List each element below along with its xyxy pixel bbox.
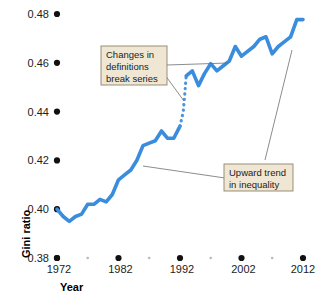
x-tick-dot-1972 [54,255,60,261]
x-minor-tick-dot-1977 [86,257,89,260]
y-tick-label-048: 0.48 [28,8,49,20]
x-tick-dot-1992 [177,255,183,261]
x-axis-tick-labels: 1972 1982 1992 2002 2012 [47,263,315,275]
x-tick-dot-2002 [238,255,244,261]
annotation-trend-callout-line-1: Upward trend [229,167,286,178]
y-tick-dot-044 [54,109,60,115]
x-tick-label-1982: 1982 [108,263,132,275]
x-axis-ticks [54,255,306,261]
leader-break-to-dotted [165,75,184,101]
x-minor-tick-dot-2007 [271,257,274,260]
x-tick-label-1972: 1972 [47,263,71,275]
y-tick-dot-046 [54,60,60,66]
y-axis-ticks [54,11,60,261]
y-tick-label-046: 0.46 [28,57,49,69]
annotation-break-callout-line-1: Changes in [106,49,154,60]
y-tick-label-044: 0.44 [28,106,49,118]
annotation-trend-callout-line-2: in inequality [229,179,279,190]
y-axis-title: Gini ratio [20,209,32,258]
leader-trend-to-post-series [265,50,292,160]
leader-break-to-series [167,63,228,65]
series-break-dotted-connector [180,76,186,126]
annotation-trend-callout[interactable]: Upward trend in inequality [224,164,293,191]
y-tick-label-042: 0.42 [28,154,49,166]
chart-canvas: 0.48 0.46 0.44 0.42 0.40 0.38 1972 1982 … [0,0,324,303]
x-tick-label-1992: 1992 [170,263,194,275]
x-tick-label-2012: 2012 [291,263,315,275]
x-tick-label-2002: 2002 [231,263,255,275]
x-axis-title: Year [60,281,84,293]
y-tick-dot-048 [54,11,60,17]
gini-ratio-line-chart: 0.48 0.46 0.44 0.42 0.40 0.38 1972 1982 … [0,0,324,303]
series-line-pre-1993 [57,126,180,221]
annotation-break-callout-line-3: break series [106,73,158,84]
x-tick-dot-2012 [300,255,306,261]
x-tick-dot-1982 [115,255,121,261]
x-minor-tick-dot-1987 [148,257,151,260]
leader-trend-to-pre-series [143,166,225,178]
annotation-break-callout-line-2: definitions [106,61,149,72]
x-minor-tick-dot-1997 [209,257,212,260]
y-tick-dot-042 [54,157,60,163]
annotation-break-callout[interactable]: Changes in definitions break series [101,46,167,85]
